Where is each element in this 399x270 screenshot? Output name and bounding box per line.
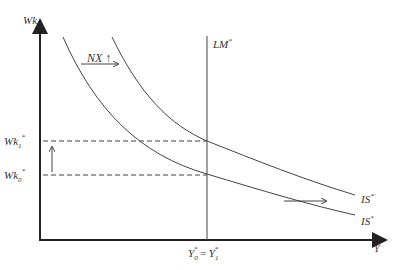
wk0-label: Wk0* <box>4 167 26 184</box>
y-axis-label: Wk <box>23 14 38 26</box>
is-prime-label: IS*' <box>360 192 376 205</box>
y-equilibrium-label: Y0* = Y1* <box>188 245 218 262</box>
is-lm-diagram: Wk Y LM* IS*' IS* Wk1* Wk0* NX↑ Y0* = Y1… <box>0 0 399 270</box>
is-label: IS* <box>360 214 374 227</box>
nx-label: NX↑ <box>86 51 111 65</box>
is-prime-curve <box>112 37 355 195</box>
x-axis-label: Y <box>374 243 381 254</box>
lm-label: LM* <box>212 37 232 50</box>
wk1-label: Wk1* <box>4 133 26 150</box>
